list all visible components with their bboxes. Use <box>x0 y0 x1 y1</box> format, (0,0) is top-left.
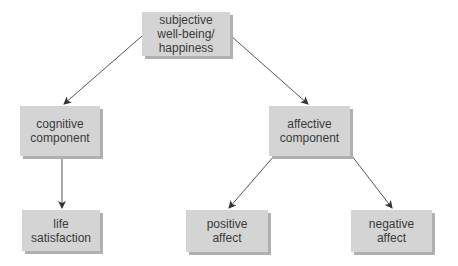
node-label-line: cognitive <box>30 117 89 131</box>
diagram-canvas: subjective well-being/ happiness cogniti… <box>0 0 458 266</box>
node-label-line: positive <box>207 217 248 231</box>
node-affective-component: affective component <box>269 106 350 156</box>
edge-affective-to-positive <box>229 156 274 208</box>
node-positive-affect: positive affect <box>186 210 268 252</box>
node-cognitive-component: cognitive component <box>20 106 100 156</box>
node-label-line: happiness <box>157 41 214 55</box>
node-label-line: well-being/ <box>157 27 214 41</box>
node-label-line: component <box>280 131 339 145</box>
node-life-satisfaction: life satisfaction <box>22 210 100 251</box>
node-label-line: negative <box>369 217 414 231</box>
edge-swb-to-affective <box>231 36 308 104</box>
node-label-line: subjective <box>157 13 214 27</box>
edge-swb-to-cognitive <box>64 36 142 104</box>
node-label-line: life <box>31 217 91 231</box>
node-label-line: component <box>30 131 89 145</box>
node-subjective-well-being: subjective well-being/ happiness <box>142 12 230 56</box>
node-label-line: satisfaction <box>31 231 91 245</box>
node-label-line: affect <box>207 231 248 245</box>
edge-affective-to-negative <box>352 156 392 208</box>
node-label-line: affective <box>280 117 339 131</box>
node-label-line: affect <box>369 231 414 245</box>
node-negative-affect: negative affect <box>351 210 432 252</box>
